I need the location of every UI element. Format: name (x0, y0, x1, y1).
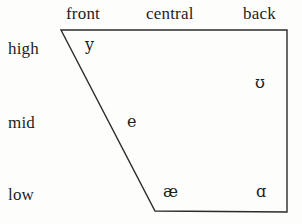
column-label-central: central (146, 5, 194, 22)
row-label-high: high (8, 40, 39, 57)
vowel-symbol-front-high: y (85, 37, 94, 53)
row-label-mid: mid (8, 114, 35, 131)
vowel-chart: front central back high mid low y ʊ e æ … (0, 0, 302, 224)
vowel-symbol-front-mid: e (127, 114, 136, 130)
column-label-front: front (66, 5, 100, 22)
column-label-back: back (243, 5, 276, 22)
row-label-low: low (8, 186, 34, 203)
vowel-symbol-back-high: ʊ (255, 75, 265, 91)
vowel-symbol-back-low: ɑ (256, 184, 266, 200)
vowel-symbol-central-low: æ (163, 184, 178, 200)
